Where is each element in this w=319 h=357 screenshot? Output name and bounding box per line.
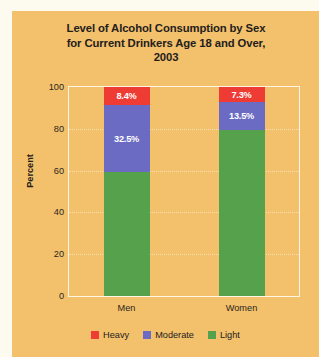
legend-item-moderate: Moderate <box>143 330 194 340</box>
legend-label: Heavy <box>103 330 129 340</box>
bar-segment-heavy: 7.3% <box>219 87 265 102</box>
legend-swatch-light <box>208 331 216 339</box>
legend-swatch-moderate <box>143 331 151 339</box>
y-axis-label: Percent <box>25 154 35 188</box>
bar-women: 13.5%7.3% <box>219 87 265 296</box>
x-axis-tick-label: Men <box>118 303 136 313</box>
legend-item-light: Light <box>208 330 240 340</box>
bar-segment-value-label: 13.5% <box>229 111 254 121</box>
chart-title-line-1: Level of Alcohol Consumption by Sex <box>32 21 300 36</box>
bar-segment-heavy: 8.4% <box>104 87 150 105</box>
bar-segment-value-label: 7.3% <box>231 90 251 100</box>
legend-item-heavy: Heavy <box>91 330 129 340</box>
bar-segment-value-label: 8.4% <box>116 91 136 101</box>
y-axis-tick-label: 20 <box>54 249 64 259</box>
chart-panel: Level of Alcohol Consumption by Sex for … <box>12 11 319 357</box>
chart-legend: HeavyModerateLight <box>12 330 319 340</box>
bar-men: 32.5%8.4% <box>104 87 150 296</box>
bar-segment-light <box>219 130 265 296</box>
legend-label: Light <box>220 330 240 340</box>
bar-segment-moderate: 32.5% <box>104 105 150 173</box>
chart-title-line-2: for Current Drinkers Age 18 and Over, <box>32 36 300 51</box>
chart-figure: Level of Alcohol Consumption by Sex for … <box>0 0 319 357</box>
y-axis-tick-label: 0 <box>59 291 64 301</box>
legend-label: Moderate <box>155 330 194 340</box>
chart-title: Level of Alcohol Consumption by Sex for … <box>32 21 300 65</box>
y-axis-tick-label: 40 <box>54 207 64 217</box>
y-axis-tick-label: 60 <box>54 166 64 176</box>
y-axis-tick-label: 80 <box>54 124 64 134</box>
legend-swatch-heavy <box>91 331 99 339</box>
bar-segment-moderate: 13.5% <box>219 102 265 130</box>
plot-area: 02040608010032.5%8.4%Men13.5%7.3%Women <box>68 86 300 297</box>
y-axis-tick-label: 100 <box>49 82 64 92</box>
bar-segment-value-label: 32.5% <box>114 134 139 144</box>
chart-title-line-3: 2003 <box>32 50 300 65</box>
bar-segment-light <box>104 172 150 296</box>
x-axis-tick-label: Women <box>226 303 258 313</box>
